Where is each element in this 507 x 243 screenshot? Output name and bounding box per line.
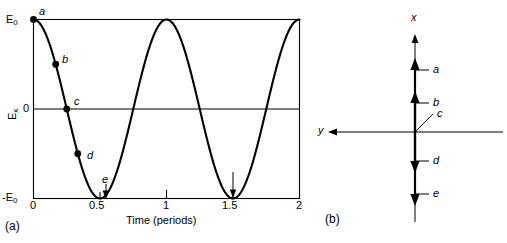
x-axis-arrowhead xyxy=(412,34,419,43)
curve-label-a: a xyxy=(39,6,45,17)
vector-label-d: d xyxy=(433,155,439,166)
curve-label-d: d xyxy=(87,150,93,161)
curve-label-c: c xyxy=(74,96,80,107)
x-tick-label-0-5: 0.5 xyxy=(89,200,104,211)
x-tick-label-0: 0 xyxy=(30,200,36,211)
vector-b-head xyxy=(410,91,419,103)
data-point-d xyxy=(74,150,81,157)
panel-b-diagram xyxy=(307,8,507,233)
panel-a-tag: (a) xyxy=(5,219,20,233)
vector-label-e: e xyxy=(433,188,439,199)
data-point-b xyxy=(52,61,59,68)
x-axis-label: Time (periods) xyxy=(126,215,197,226)
vector-label-c: c xyxy=(437,108,443,119)
trough-pointer-head xyxy=(230,190,236,199)
figure-root: E0 0 -E0 Ex 0 0.5 1 1.5 2 Time (periods)… xyxy=(0,0,507,243)
vector-c-leader xyxy=(415,114,433,132)
vector-label-a: a xyxy=(433,64,439,75)
panel-b-x-axis-label: x xyxy=(411,12,417,23)
x-tick-label-1: 1 xyxy=(163,200,169,211)
data-point-c xyxy=(63,106,70,113)
vector-a-head xyxy=(410,58,419,70)
panel-a-plot xyxy=(0,0,310,215)
y-tick-label-zero: 0 xyxy=(23,103,29,114)
y-tick-label-neg-e0: -E0 xyxy=(2,192,17,206)
vector-e-head xyxy=(410,194,419,206)
panel-b-y-axis-label: y xyxy=(318,125,324,136)
panel-b-tag: (b) xyxy=(325,212,340,226)
y-axis-arrowhead xyxy=(328,129,337,136)
y-tick-label-e0: E0 xyxy=(6,14,18,28)
x-tick-label-1-5: 1.5 xyxy=(222,200,237,211)
x-tick-label-2: 2 xyxy=(296,200,302,211)
y-axis-label: Ex xyxy=(6,109,20,120)
curve-label-b: b xyxy=(62,54,68,65)
curve-label-e: e xyxy=(102,174,108,185)
data-point-a xyxy=(30,16,37,23)
